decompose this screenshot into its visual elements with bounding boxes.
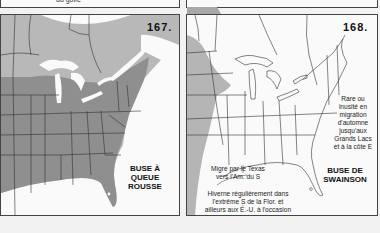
species-line-2: QUEUE — [117, 173, 173, 182]
map-number-168: 168. — [343, 21, 368, 33]
note-line: Hiverne régulièrement dans — [189, 190, 307, 198]
note-line: et à la côte E — [329, 143, 377, 151]
previous-map-strip-right — [186, 0, 378, 8]
map-number-167: 167. — [147, 21, 172, 33]
species-line-1: BUSE DE — [313, 166, 377, 175]
note-line: Migre par le Texas — [199, 165, 277, 173]
note-line: vers l'Am. du S — [199, 173, 277, 181]
previous-map-range-fragment — [187, 7, 377, 14]
note-east-migration: Rare ou inusité en migration d'automne j… — [329, 95, 377, 151]
previous-map-strip-left: du golfe — [0, 0, 180, 8]
note-line: inusité en — [329, 103, 377, 111]
note-line: l'extrême S de la Flor. et — [189, 198, 307, 206]
previous-map-caption: du golfe — [56, 0, 81, 3]
map-168-swainsons-hawk: 168. Rare ou inusité en migration d'auto… — [186, 14, 378, 216]
note-line: Rare ou — [329, 95, 377, 103]
note-line: ailleurs aux É.-U. à l'occasion — [189, 206, 307, 214]
note-line: jusqu'aux — [329, 127, 377, 135]
species-line-1: BUSE À — [117, 164, 173, 173]
map-167-red-tailed-hawk: 167. BUSE À QUEUE ROUSSE — [0, 14, 180, 216]
note-line: migration — [329, 111, 377, 119]
species-line-2: SWAINSON — [313, 175, 377, 184]
species-name-168: BUSE DE SWAINSON — [313, 166, 377, 184]
species-name-167: BUSE À QUEUE ROUSSE — [117, 164, 173, 191]
note-line: Grands Lacs — [329, 135, 377, 143]
note-texas-migration: Migre par le Texas vers l'Am. du S — [199, 165, 277, 181]
note-line: d'automne — [329, 119, 377, 127]
species-line-3: ROUSSE — [117, 182, 173, 191]
note-wintering: Hiverne régulièrement dans l'extrême S d… — [189, 190, 307, 214]
